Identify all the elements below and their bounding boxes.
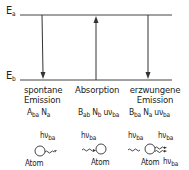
absorption-arrow	[94, 16, 99, 80]
atom-label-1: Atom	[25, 159, 43, 169]
atom-1-icon	[35, 146, 57, 156]
lower-level-label: Eb	[6, 71, 16, 84]
atom-label-3: Atom	[141, 158, 159, 168]
upper-level-label: Ea	[6, 6, 15, 19]
photon-label-3-out2: hνba	[163, 157, 178, 169]
photon-label-1: hνba	[40, 131, 55, 143]
spontaneous-emission-title: spontane Emission	[24, 85, 62, 105]
atom-label-2: Atom	[91, 158, 109, 168]
spontaneous-emission-arrow	[41, 15, 46, 79]
photon-label-3-in: hνba	[128, 131, 143, 143]
stimulated-emission-formula: Bba Na uνba	[129, 107, 170, 120]
stimulated-emission-arrow	[146, 15, 151, 79]
atom-3-icon	[128, 144, 167, 154]
spontaneous-emission-formula: Aba Na	[27, 107, 50, 120]
atom-2-icon	[82, 144, 106, 154]
absorption-formula: Bab Nb uνba	[78, 107, 119, 120]
absorption-title: Absorption	[75, 85, 119, 95]
photon-label-3-out1: hνba	[158, 131, 173, 143]
stimulated-emission-title: erzwungene Emission	[126, 85, 184, 105]
photon-label-2: hνba	[81, 131, 96, 143]
